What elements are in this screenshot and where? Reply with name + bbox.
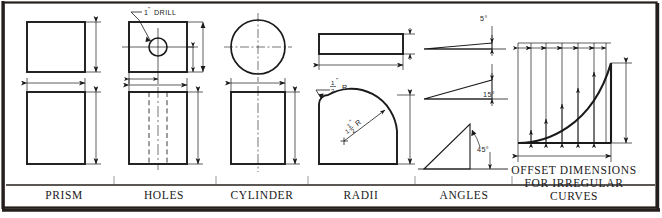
drill-note-unit: " bbox=[148, 6, 150, 12]
plate-canvas: 1 " DRILL 1 " 2 R 1 1 " 2 R 5° 15° 45° P… bbox=[0, 0, 662, 218]
fillet-radius-letter: R bbox=[342, 83, 348, 92]
drawing-plate: 1 " DRILL 1 " 2 R 1 1 " 2 R 5° 15° 45° P… bbox=[0, 0, 662, 218]
caption-offset-line3: CURVES bbox=[550, 190, 598, 202]
angle-5-label: 5° bbox=[480, 14, 488, 23]
caption-radii: RADII bbox=[344, 189, 379, 201]
caption-offset-line2: FOR IRREGULAR bbox=[525, 177, 624, 189]
caption-offset-line1: OFFSET DIMENSIONS bbox=[511, 164, 636, 176]
drill-note-word: DRILL bbox=[154, 8, 176, 17]
angle-15-label: 15° bbox=[483, 90, 495, 99]
caption-holes: HOLES bbox=[144, 189, 184, 201]
caption-angles: ANGLES bbox=[440, 189, 489, 201]
fillet-radius-unit: " bbox=[336, 77, 338, 83]
caption-cylinder: CYLINDER bbox=[231, 189, 294, 201]
caption-prism: PRISM bbox=[45, 189, 83, 201]
angle-45-label: 45° bbox=[477, 145, 489, 154]
